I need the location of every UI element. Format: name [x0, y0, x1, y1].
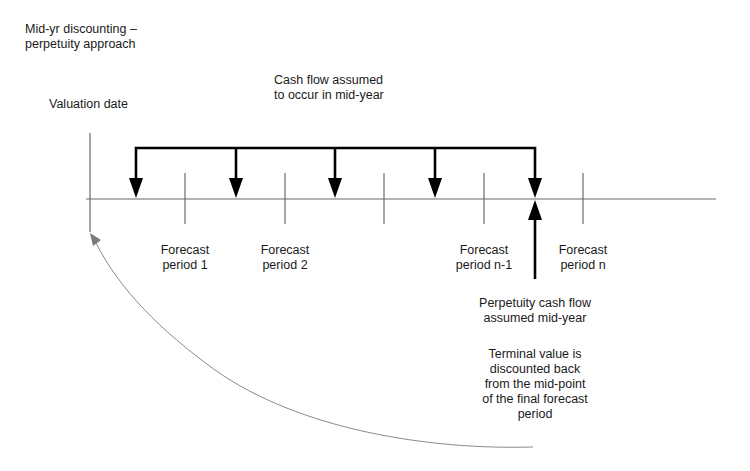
period-label-n-minus-1: Forecast period n-1 — [444, 243, 524, 273]
perpetuity-arrow — [528, 200, 542, 279]
arrow-up-icon — [528, 200, 542, 220]
arrow-down-icon — [328, 178, 342, 198]
period-label-n: Forecast period n — [543, 243, 623, 273]
arrow-down-icon — [229, 178, 243, 198]
perpetuity-note: Perpetuity cash flow assumed mid-year — [460, 296, 610, 326]
period-label-2: Forecast period 2 — [245, 243, 325, 273]
period-label-1: Forecast period 1 — [145, 243, 225, 273]
arrow-head-icon — [90, 233, 101, 246]
cash-flow-note: Cash flow assumed to occur in mid-year — [274, 73, 384, 103]
timeline-diagram — [0, 0, 750, 471]
diagram-title: Mid-yr discounting – perpetuity approach — [25, 22, 137, 52]
cash-flow-bracket — [136, 148, 535, 181]
arrow-down-icon — [129, 178, 143, 198]
valuation-date-label: Valuation date — [49, 97, 128, 112]
terminal-value-note: Terminal value is discounted back from t… — [460, 347, 610, 422]
mid-year-cash-flow-arrows — [129, 178, 542, 198]
arrow-down-icon — [428, 178, 442, 198]
arrow-down-icon — [528, 178, 542, 198]
